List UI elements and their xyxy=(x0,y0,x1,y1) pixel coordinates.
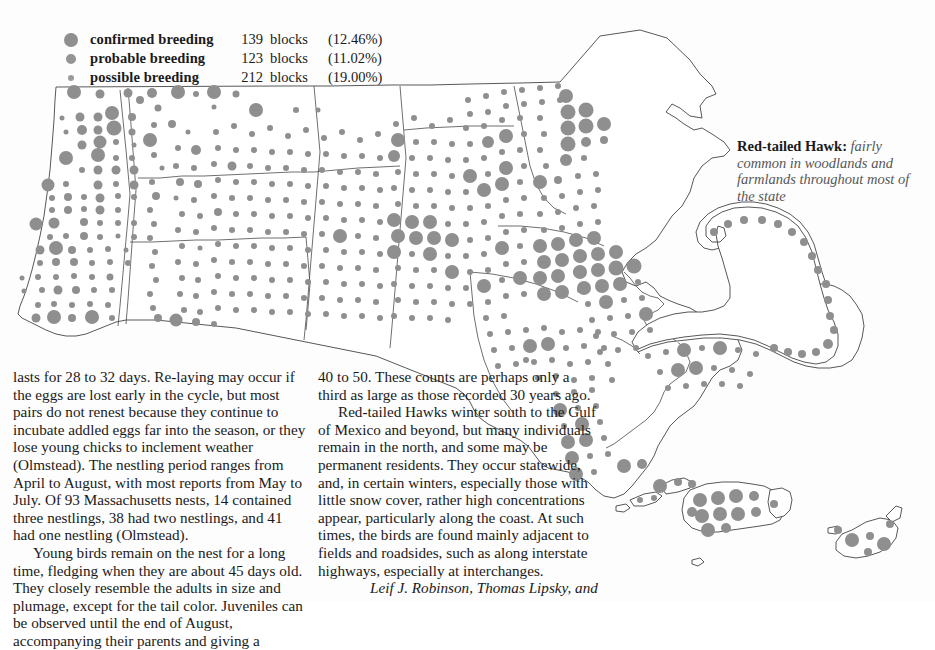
paragraph-left-2: Young birds remain on the nest for a lon… xyxy=(13,544,306,650)
legend-unit-confirmed: blocks xyxy=(270,31,328,48)
legend-count-probable: 123 xyxy=(230,50,270,67)
legend-swatch-confirmed xyxy=(52,33,90,47)
paragraph-right-2: Red-tailed Hawks winter south to the Gul… xyxy=(318,403,601,579)
paragraph-left-1: lasts for 28 to 32 days. Re-laying may o… xyxy=(13,368,306,544)
large-gray-dot-icon xyxy=(64,33,78,47)
legend-swatch-possible xyxy=(52,75,90,81)
legend-row-possible: possible breeding 212 blocks (19.00%) xyxy=(52,68,452,87)
text-column-right: 40 to 50. These counts are perhaps only … xyxy=(318,368,601,597)
legend-count-possible: 212 xyxy=(230,69,270,86)
small-gray-dot-icon xyxy=(68,75,74,81)
legend-row-probable: probable breeding 123 blocks (11.02%) xyxy=(52,49,452,68)
paragraph-right-1: 40 to 50. These counts are perhaps only … xyxy=(318,368,601,403)
legend-unit-probable: blocks xyxy=(270,50,328,67)
legend-count-confirmed: 139 xyxy=(230,31,270,48)
map-legend: confirmed breeding 139 blocks (12.46%) p… xyxy=(52,30,452,87)
map-caption: Red-tailed Hawk: fairly common in woodla… xyxy=(737,138,927,204)
legend-unit-possible: blocks xyxy=(270,69,328,86)
legend-percent-possible: (19.00%) xyxy=(328,69,382,86)
legend-label-possible: possible breeding xyxy=(90,69,230,86)
legend-label-confirmed: confirmed breeding xyxy=(90,31,230,48)
text-column-left: lasts for 28 to 32 days. Re-laying may o… xyxy=(13,368,306,650)
medium-gray-dot-icon xyxy=(66,54,76,64)
legend-row-confirmed: confirmed breeding 139 blocks (12.46%) xyxy=(52,30,452,49)
legend-percent-confirmed: (12.46%) xyxy=(328,31,382,48)
caption-species-name: Red-tailed Hawk: xyxy=(737,138,847,154)
author-byline: Leif J. Robinson, Thomas Lipsky, and xyxy=(318,579,601,597)
legend-label-probable: probable breeding xyxy=(90,50,230,67)
article-body: lasts for 28 to 32 days. Re-laying may o… xyxy=(0,368,935,602)
legend-swatch-probable xyxy=(52,54,90,64)
legend-percent-probable: (11.02%) xyxy=(328,50,382,67)
